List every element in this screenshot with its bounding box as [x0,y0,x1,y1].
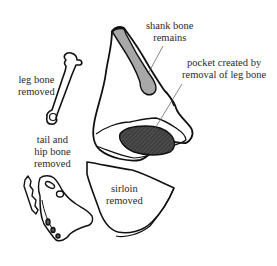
label-pocket: pocket created by removal of leg bone [182,57,266,81]
lamb-leg-diagram [0,0,277,266]
label-sirloin: sirloin removed [106,183,143,207]
shank-leader-line [149,46,163,72]
label-leg-bone: leg bone removed [18,74,55,98]
label-tail-hip-bone: tail and hip bone removed [34,134,71,170]
label-shank-bone: shank bone remains [146,20,194,44]
tail-hip-bone-shape [24,176,93,241]
